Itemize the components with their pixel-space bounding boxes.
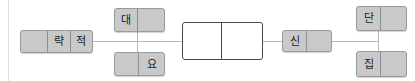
node-yo-cell-1: 요 bbox=[139, 53, 164, 75]
node-left-cell-1: 략 bbox=[48, 31, 70, 52]
node-dan-cell-1 bbox=[381, 7, 406, 30]
node-sin[interactable]: 신 bbox=[282, 30, 332, 52]
connector-center-to-sin bbox=[263, 41, 282, 42]
connector-branch-vertical-left bbox=[137, 31, 138, 53]
node-left-cell-2: 적 bbox=[71, 31, 92, 52]
node-center-cell-0 bbox=[183, 23, 222, 59]
node-jip[interactable]: 집 bbox=[356, 51, 407, 77]
node-dae[interactable]: 대 bbox=[114, 8, 165, 32]
diagram-canvas: 략 적 대 요 신 단 집 bbox=[0, 0, 415, 81]
node-sin-cell-1 bbox=[307, 31, 331, 51]
node-dae-cell-1 bbox=[138, 9, 164, 31]
node-yo[interactable]: 요 bbox=[114, 52, 165, 76]
node-yo-cell-0 bbox=[115, 53, 139, 75]
frame-rule-left bbox=[8, 0, 9, 81]
node-sin-cell-0: 신 bbox=[283, 31, 307, 51]
node-jip-cell-1 bbox=[381, 52, 406, 76]
connector-sin-to-branch bbox=[332, 41, 378, 42]
node-jip-cell-0: 집 bbox=[357, 52, 381, 76]
node-center-empty[interactable] bbox=[182, 22, 263, 60]
node-dan[interactable]: 단 bbox=[356, 6, 407, 31]
node-dae-cell-0: 대 bbox=[115, 9, 138, 31]
connector-branch-vertical-right bbox=[378, 30, 379, 52]
node-dan-cell-0: 단 bbox=[357, 7, 381, 30]
node-center-cell-1 bbox=[222, 23, 262, 59]
node-left-cell-0 bbox=[21, 31, 48, 52]
node-left[interactable]: 략 적 bbox=[20, 30, 93, 53]
